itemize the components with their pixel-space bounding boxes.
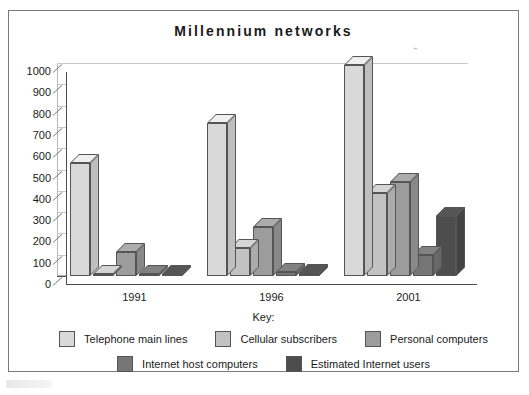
bar-personal-computers-1991	[116, 252, 136, 276]
scan-artifact-footer	[6, 380, 52, 388]
legend-item-estimated-internet-users: Estimated Internet users	[286, 356, 430, 372]
legend-label: Estimated Internet users	[311, 358, 430, 370]
bar-front-face	[299, 273, 319, 276]
legend-item-telephone-main-lines: Telephone main lines	[59, 331, 187, 347]
legend-swatch-icon	[117, 356, 133, 372]
legend-item-personal-computers: Personal computers	[365, 331, 488, 347]
bar-side-face	[90, 154, 99, 276]
legend-swatch-icon	[365, 331, 381, 347]
legend-label: Personal computers	[390, 333, 488, 345]
y-axis-tick-label: 300	[17, 214, 51, 226]
key-title: Key:	[9, 311, 518, 323]
figure-frame: Millennium networks 01002003004005006007…	[8, 10, 519, 372]
bar-telephone-main-lines-1991	[70, 163, 90, 276]
bar-front-face	[116, 252, 136, 276]
legend-swatch-icon	[59, 331, 75, 347]
legend-label: Cellular subscribers	[240, 333, 337, 345]
y-axis-tick-label: 800	[17, 108, 51, 120]
y-axis-tick-label: 400	[17, 193, 51, 205]
bar-internet-host-computers-1996	[276, 272, 296, 276]
bar-side-face	[410, 173, 419, 276]
y-axis-tick-label: 1000	[17, 65, 51, 77]
bar-telephone-main-lines-1996	[207, 123, 227, 276]
legend-swatch-icon	[215, 331, 231, 347]
legend-row: Telephone main linesCellular subscribers…	[27, 331, 520, 347]
y-axis-tick-label: 700	[17, 129, 51, 141]
legend-label: Internet host computers	[142, 358, 258, 370]
chart-legend: Telephone main linesCellular subscribers…	[27, 331, 520, 381]
x-axis-tick-label-1991: 1991	[95, 291, 175, 303]
legend-item-internet-host-computers: Internet host computers	[117, 356, 258, 372]
x-axis-tick-label-2001: 2001	[369, 291, 449, 303]
chart-title: Millennium networks	[9, 23, 518, 39]
bar-front-face	[70, 163, 90, 276]
y-axis-tick-label: 900	[17, 86, 51, 98]
y-axis-tick-label: 600	[17, 150, 51, 162]
y-axis-tick-label: 200	[17, 235, 51, 247]
bar-front-face	[93, 274, 113, 276]
bar-estimated-internet-users-1996	[299, 273, 319, 276]
x-axis-tick-labels: 199119962001	[57, 291, 477, 307]
legend-swatch-icon	[286, 356, 302, 372]
bar-front-face	[139, 274, 159, 276]
bar-front-face	[162, 274, 182, 276]
bar-telephone-main-lines-2001	[344, 65, 364, 276]
plot-area	[57, 63, 477, 285]
bar-front-face	[344, 65, 364, 276]
x-axis-tick-label-1996: 1996	[232, 291, 312, 303]
legend-label: Telephone main lines	[84, 333, 187, 345]
bar-side-face	[273, 218, 282, 276]
scan-artifact-icon: ⌁	[413, 44, 427, 52]
bar-estimated-internet-users-1991	[162, 274, 182, 276]
y-axis-tick-label: 100	[17, 257, 51, 269]
y-axis-tick-labels: 01002003004005006007008009001000	[17, 63, 51, 285]
bar-front-face	[207, 123, 227, 276]
bar-cellular-subscribers-1991	[93, 274, 113, 276]
bar-side-face	[227, 114, 236, 276]
legend-item-cellular-subscribers: Cellular subscribers	[215, 331, 337, 347]
legend-row: Internet host computersEstimated Interne…	[27, 356, 520, 372]
bar-side-face	[387, 184, 396, 276]
y-axis-tick-label: 0	[17, 278, 51, 290]
bar-side-face	[456, 207, 465, 276]
bar-front-face	[276, 272, 296, 276]
bar-side-face	[364, 56, 373, 276]
bar-internet-host-computers-1991	[139, 274, 159, 276]
gridline	[57, 63, 468, 64]
y-axis-tick-label: 500	[17, 172, 51, 184]
